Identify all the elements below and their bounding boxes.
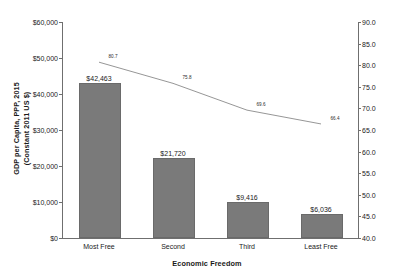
plot-area: $42,463$21,720$9,416$6,036 80.775.869.66…: [62, 22, 358, 238]
y-axis-right-tick-mark: [358, 44, 361, 45]
line-series: [62, 22, 358, 238]
line-data-label: 80.7: [109, 54, 118, 59]
y-axis-right-tick-mark: [358, 65, 361, 66]
y-axis-right-tick-label: 45.0: [362, 213, 406, 220]
y-axis-right-tick-label: 50.0: [362, 191, 406, 198]
y-axis-left-tick-label: $50,000: [14, 55, 58, 62]
y-axis-right-tick-label: 65.0: [362, 127, 406, 134]
y-axis-left-tick-label: $60,000: [14, 19, 58, 26]
line-data-label: 66.4: [331, 116, 340, 121]
y-axis-right-tick-label: 55.0: [362, 170, 406, 177]
y-axis-right-tick-mark: [358, 216, 361, 217]
y-axis-left-tick-label: $30,000: [14, 127, 58, 134]
y-axis-right-tick-mark: [358, 130, 361, 131]
y-axis-right-tick-label: 85.0: [362, 40, 406, 47]
y-axis-left-tick-labels: $0$10,000$20,000$30,000$40,000$50,000$60…: [14, 0, 58, 277]
x-axis-line: [62, 238, 358, 239]
x-axis-tick-label: Most Free: [83, 243, 115, 250]
y-axis-right-tick-mark: [358, 152, 361, 153]
y-axis-right-tick-label: 40.0: [362, 235, 406, 242]
y-axis-right-tick-mark: [358, 108, 361, 109]
x-axis-tick-label: Third: [239, 243, 255, 250]
y-axis-left-tick-mark: [59, 238, 62, 239]
y-axis-right-tick-mark: [358, 173, 361, 174]
y-axis-left-tick-label: $0: [14, 235, 58, 242]
y-axis-left-tick-label: $10,000: [14, 199, 58, 206]
y-axis-right-tick-label: 60.0: [362, 148, 406, 155]
y-axis-right-tick-label: 90.0: [362, 19, 406, 26]
y-axis-right-tick-label: 70.0: [362, 105, 406, 112]
y-axis-left-tick-label: $20,000: [14, 163, 58, 170]
x-axis-tick-label: Least Free: [304, 243, 337, 250]
y-axis-right-tick-label: 80.0: [362, 62, 406, 69]
y-axis-right-tick-mark: [358, 195, 361, 196]
y-axis-left-tick-label: $40,000: [14, 91, 58, 98]
chart-container: GDP per Capita, PPP, 2015 (Constant 2011…: [0, 0, 414, 277]
line-data-label: 75.8: [183, 75, 192, 80]
x-axis-title: Economic Freedom: [0, 259, 414, 268]
x-axis-tick-label: Second: [161, 243, 185, 250]
y-axis-right-tick-mark: [358, 22, 361, 23]
line-data-label: 69.6: [257, 102, 266, 107]
y-axis-right-tick-mark: [358, 238, 361, 239]
y-axis-right-tick-label: 75.0: [362, 83, 406, 90]
y-axis-right-tick-labels: 40.045.050.055.060.065.070.075.080.085.0…: [362, 0, 408, 277]
y-axis-right-tick-mark: [358, 87, 361, 88]
